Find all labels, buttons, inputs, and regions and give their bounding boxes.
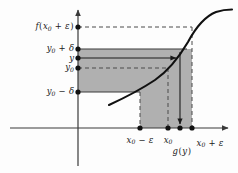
x-label-x0-plus-eps: x0 + ε: [197, 139, 224, 148]
y-axis-dot: [75, 46, 80, 51]
x-axis-dot: [177, 125, 182, 130]
x-axis-dot: [189, 125, 194, 130]
y-label-f-x0-plus-eps: f(x0 + ε): [35, 22, 74, 31]
y-label-y: y: [69, 54, 74, 63]
shaded-region-cutout: [78, 92, 140, 128]
y-axis-dot: [75, 65, 80, 70]
y-label-y0-minus-delta: y0 − δ: [47, 87, 74, 96]
inverse-function-continuity-diagram: f(x0 + ε) y0 + δ y y0 y0 − δ x0 − ε x0 g…: [0, 0, 238, 173]
x-axis-dot: [137, 125, 142, 130]
x-label-x0: x0: [164, 136, 173, 145]
x-label-g-of-y: g(y): [173, 147, 192, 156]
y-axis-dot: [75, 24, 80, 29]
x-label-x0-minus-eps: x0 − ε: [127, 136, 154, 145]
y-axis-dot: [75, 55, 80, 60]
x-axis-dot: [165, 125, 170, 130]
y-axis-dot: [75, 89, 80, 94]
y-label-y0: y0: [65, 63, 74, 72]
